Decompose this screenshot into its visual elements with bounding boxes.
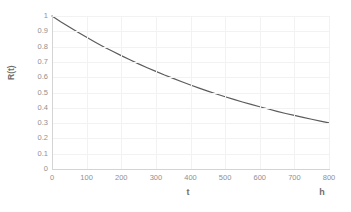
- gridline-vertical: [260, 16, 261, 169]
- plot-area: [52, 16, 329, 169]
- gridline-vertical: [329, 16, 330, 169]
- gridline-vertical: [121, 16, 122, 169]
- y-axis-title: R(t): [6, 65, 16, 80]
- y-axis-line: [52, 16, 53, 170]
- gridline-vertical: [225, 16, 226, 169]
- y-tick-label: 0.4: [4, 104, 48, 112]
- gridline-vertical: [294, 16, 295, 169]
- y-tick-label: 0.9: [4, 27, 48, 35]
- y-tick-label: 0.1: [4, 150, 48, 158]
- x-axis-line: [52, 169, 330, 170]
- gridline-vertical: [191, 16, 192, 169]
- y-tick-label: 0.2: [4, 134, 48, 142]
- x-axis-unit-label: h: [310, 187, 334, 197]
- y-tick-label: 0.3: [4, 119, 48, 127]
- gridline-vertical: [156, 16, 157, 169]
- y-tick-label: 0.8: [4, 43, 48, 51]
- x-axis-title: t: [168, 187, 208, 197]
- reliability-decay-chart: 00.10.20.30.40.50.60.70.80.91 R(t) t h 0…: [0, 0, 351, 212]
- y-tick-label: 0.5: [4, 89, 48, 97]
- x-tick-label: 800: [309, 173, 349, 182]
- y-tick-label: 0: [4, 165, 48, 173]
- gridline-vertical: [87, 16, 88, 169]
- y-tick-label: 1: [4, 12, 48, 20]
